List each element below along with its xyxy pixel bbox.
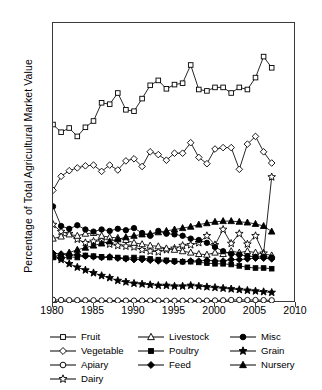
legend-item-misc[interactable]: Misc — [228, 330, 295, 344]
filled-diamond-icon — [136, 358, 166, 372]
legend-label: Dairy — [78, 372, 103, 386]
open-triangle-icon — [136, 330, 166, 344]
legend-label: Nursery — [258, 358, 295, 372]
filled-star-icon — [228, 344, 258, 358]
legend-label: Livestock — [166, 330, 209, 344]
filled-circle-icon — [228, 330, 258, 344]
series-dairy — [53, 173, 276, 257]
plot-area — [52, 22, 295, 302]
legend-label: Feed — [166, 358, 191, 372]
open-circle-icon — [48, 358, 78, 372]
legend-label: Misc — [258, 330, 281, 344]
legend-item-vegetable[interactable]: Vegetable — [48, 344, 124, 358]
open-diamond-icon — [48, 344, 78, 358]
legend-label: Grain — [258, 344, 284, 358]
legend-item-fruit[interactable]: Fruit — [48, 330, 124, 344]
legend-item-apiary[interactable]: Apiary — [48, 358, 124, 372]
legend-item-feed[interactable]: Feed — [136, 358, 209, 372]
open-square-icon — [48, 330, 78, 344]
legend-column-1: LivestockPoultryFeed — [136, 330, 209, 372]
legend-label: Apiary — [78, 358, 108, 372]
series-vegetable — [53, 133, 275, 194]
series-fruit — [53, 54, 274, 138]
legend-item-dairy[interactable]: Dairy — [48, 372, 124, 386]
series-canvas — [53, 23, 296, 303]
legend-column-2: MiscGrainNursery — [228, 330, 295, 372]
y-axis-title: Percentage of Total Agricultural Market … — [22, 41, 34, 291]
chart-legend: FruitVegetableApiaryDairyLivestockPoultr… — [48, 330, 314, 388]
legend-item-nursery[interactable]: Nursery — [228, 358, 295, 372]
legend-item-poultry[interactable]: Poultry — [136, 344, 209, 358]
legend-label: Fruit — [78, 330, 100, 344]
open-star-icon — [48, 372, 78, 386]
chart-figure: Percentage of Total Agricultural Market … — [0, 0, 322, 390]
filled-triangle-icon — [228, 358, 258, 372]
filled-square-icon — [136, 344, 166, 358]
legend-label: Vegetable — [78, 344, 124, 358]
legend-label: Poultry — [166, 344, 199, 358]
legend-item-livestock[interactable]: Livestock — [136, 330, 209, 344]
series-apiary — [53, 297, 274, 303]
legend-item-grain[interactable]: Grain — [228, 344, 295, 358]
legend-column-0: FruitVegetableApiaryDairy — [48, 330, 124, 386]
